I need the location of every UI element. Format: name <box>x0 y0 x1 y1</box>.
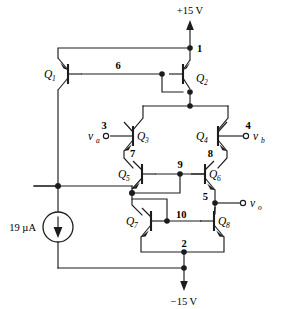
node-label-6: 6 <box>115 60 120 71</box>
negative-rail-arrow-icon <box>180 281 188 291</box>
schematic-svg: +15 V 1 Q 1 6 Q <box>0 0 284 309</box>
Q6-label-sub: 6 <box>217 174 221 183</box>
vb-label-sub: b <box>261 136 265 145</box>
Q7-collector-lead <box>142 208 151 217</box>
transistor-Q6: Q 6 <box>191 161 221 190</box>
Q1-emitter-lead <box>58 58 68 70</box>
current-source-19ua: 19 µA <box>9 212 73 242</box>
transistor-Q4: Q 4 <box>196 122 243 151</box>
va-label-sub: a <box>96 136 100 145</box>
node-label-8: 8 <box>208 148 213 159</box>
Q2-label-sub: 2 <box>204 78 208 87</box>
circuit-diagram: +15 V 1 Q 1 6 Q <box>0 0 284 309</box>
vb-label: v <box>253 130 259 142</box>
transistor-Q2: Q 2 <box>169 60 208 89</box>
node5-output-group: v o 5 <box>203 190 262 214</box>
node-label-1: 1 <box>197 43 202 54</box>
node-label-10: 10 <box>176 209 187 220</box>
node-label-9: 9 <box>177 159 182 170</box>
node10-group: 10 <box>132 199 201 224</box>
Q2-emitter-arrow-icon <box>183 63 190 70</box>
node-dot-1 <box>187 45 193 51</box>
Q1-collector-lead <box>58 78 68 90</box>
node-label-5: 5 <box>203 191 208 202</box>
node7-group: 7 <box>124 148 135 168</box>
vo-label-sub: o <box>258 203 262 212</box>
transistor-Q1: Q 1 <box>44 58 82 90</box>
node-label-2: 2 <box>181 238 186 249</box>
vb-terminal-icon[interactable] <box>243 133 248 138</box>
input-va-group: v a 3 <box>88 120 109 145</box>
Q1-label-sub: 1 <box>52 74 56 83</box>
va-terminal-icon[interactable] <box>103 133 108 138</box>
positive-rail-arrow-icon <box>186 20 194 30</box>
vo-label: v <box>250 197 256 209</box>
node6-group: 6 <box>82 60 183 92</box>
positive-rail-label: +15 V <box>177 5 204 16</box>
Q7-label-sub: 7 <box>134 221 138 230</box>
node1-branch-group: 1 <box>58 43 202 58</box>
node1-to-q1-emitter-wire <box>58 48 190 58</box>
node-label-7: 7 <box>130 148 135 159</box>
node-label-4: 4 <box>245 120 251 131</box>
Q5-label-sub: 5 <box>126 174 130 183</box>
tail-to-q3-collector-wire <box>133 106 143 130</box>
Q3-label-sub: 3 <box>144 136 149 145</box>
node2-group: 2 <box>141 237 224 271</box>
input-vb-group: v b 4 <box>243 120 265 145</box>
va-label: v <box>88 130 94 142</box>
transistor-Q8: Q 8 <box>200 207 230 237</box>
q5-emitter-node-group <box>34 186 142 215</box>
current-source-label: 19 µA <box>9 222 36 233</box>
node-label-3: 3 <box>101 120 106 131</box>
Q4-collector-lead <box>218 122 227 132</box>
Q3-collector-lead <box>124 122 133 132</box>
Q8-label-sub: 8 <box>226 221 230 230</box>
Q5-collector-lead <box>133 161 142 170</box>
node6-to-q2-base-jog <box>162 74 183 92</box>
negative-rail-group: −15 V <box>171 268 198 307</box>
transistor-Q3: Q 3 <box>110 122 149 151</box>
tail-bus-group <box>133 106 228 130</box>
Q5-emitter-arrow-icon <box>132 183 140 189</box>
negative-rail-label: −15 V <box>171 296 198 307</box>
Q4-label-sub: 4 <box>204 136 208 145</box>
vo-terminal-icon[interactable] <box>240 200 245 205</box>
transistor-Q7: Q 7 <box>126 208 165 237</box>
transistor-Q5: Q 5 <box>118 161 156 189</box>
q5-emitter-to-q7-collector-wire <box>132 193 142 215</box>
node8-wire <box>218 151 227 168</box>
